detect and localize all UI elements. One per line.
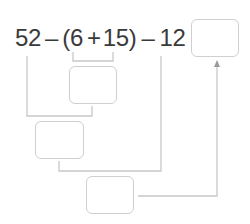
step3-box[interactable] <box>86 176 134 214</box>
arrow-up-icon <box>214 60 220 67</box>
step1-box[interactable] <box>69 66 117 104</box>
answer-box[interactable] <box>191 19 239 57</box>
connector-step3-answer <box>138 66 217 196</box>
step2-box[interactable] <box>35 121 84 159</box>
bracket-6-plus-15 <box>73 52 113 61</box>
